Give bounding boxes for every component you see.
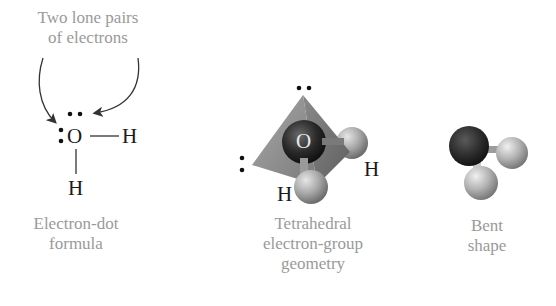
hydrogen-sphere-bottom: [464, 166, 498, 200]
hydrogen-sphere-right: [496, 137, 528, 169]
bent-caption: Bent shape: [447, 216, 527, 256]
caption-line: shape: [447, 236, 527, 256]
oxygen-sphere: [449, 126, 489, 166]
bent-drawing: [0, 0, 556, 306]
caption-line: Bent: [447, 216, 527, 236]
